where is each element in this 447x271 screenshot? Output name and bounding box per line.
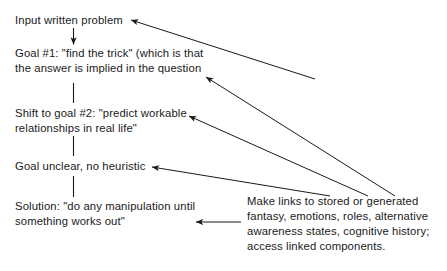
flow-node-input-written-problem: Input written problem	[15, 13, 123, 28]
flow-node-goal-unclear: Goal unclear, no heuristic	[15, 159, 145, 174]
diagram-canvas: Input written problem Goal #1: "find the…	[0, 0, 447, 271]
link-arrow-to-shift	[189, 116, 368, 196]
flow-node-shift-to-goal-2: Shift to goal #2: "predict workable rela…	[15, 106, 187, 136]
flow-node-solution: Solution: "do any manipulation until som…	[15, 199, 195, 229]
flow-node-goal-1: Goal #1: "find the trick" (which is that…	[15, 46, 203, 76]
link-arrow-to-goalunclear	[152, 167, 330, 196]
side-note-make-links: Make links to stored or generated fantas…	[247, 194, 437, 254]
link-arrow-to-goal1	[206, 77, 395, 196]
